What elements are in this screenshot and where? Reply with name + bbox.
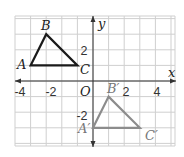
vertex-label-b: B [40,18,51,33]
x-axis-label: x [168,65,176,80]
vertex-label-a-prime: A′ [77,121,90,136]
vertex-label-c-prime: C′ [145,128,158,143]
y-tick-2: 2 [81,44,88,58]
vertex-label-a: A [16,57,26,72]
x-tick-neg4: -4 [14,85,25,99]
y-axis-label: y [97,16,106,31]
x-tick-2: 2 [123,85,130,99]
x-axis-left-arrow-icon [15,79,21,84]
origin-label: O [80,84,91,99]
coordinate-plane: x y O -4 -2 2 4 2 -2 A B C A′ B′ C′ [0,0,184,157]
vertex-label-b-prime: B′ [106,81,120,96]
x-tick-neg2: -2 [45,85,56,99]
x-tick-4: 4 [154,85,161,99]
vertex-label-c: C [80,62,90,77]
